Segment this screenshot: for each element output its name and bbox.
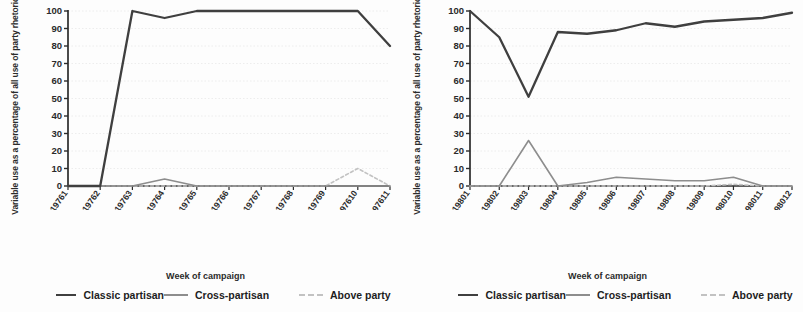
chart-panel-left: Variable use as a percentage of all use … bbox=[0, 0, 401, 312]
svg-text:100: 100 bbox=[448, 5, 464, 16]
svg-text:10: 10 bbox=[453, 163, 464, 174]
plot-area-left: 0102030405060708090100CARTER19761CARTER1… bbox=[28, 4, 394, 210]
y-axis-title-left-text: Variable use as a percentage of all use … bbox=[10, 0, 20, 215]
legend-item-classic-partisan[interactable]: Classic partisan bbox=[14, 289, 164, 301]
legend-label: Classic partisan bbox=[83, 289, 164, 301]
chart-panel-right: Variable use as a percentage of all use … bbox=[402, 0, 803, 312]
legend-left: Classic partisanCross-partisanAbove part… bbox=[14, 289, 404, 301]
legend-item-classic-partisan[interactable]: Classic partisan bbox=[416, 289, 566, 301]
plot-svg-left: 0102030405060708090100CARTER19761CARTER1… bbox=[28, 4, 394, 210]
svg-text:60: 60 bbox=[453, 75, 464, 86]
legend-label: Cross-partisan bbox=[597, 289, 671, 301]
solid-dark-line-swatch bbox=[56, 294, 76, 296]
plot-svg-right: 0102030405060708090100CARTER19801CARTER1… bbox=[430, 4, 796, 210]
solid-gray-line-swatch bbox=[566, 294, 590, 296]
solid-gray-line-swatch bbox=[164, 294, 188, 296]
svg-text:20: 20 bbox=[51, 145, 62, 156]
figure-root: Variable use as a percentage of all use … bbox=[0, 0, 803, 312]
svg-text:90: 90 bbox=[51, 23, 62, 34]
legend-item-above-party[interactable]: Above party bbox=[701, 289, 803, 301]
svg-text:50: 50 bbox=[453, 93, 464, 104]
y-axis-title-left: Variable use as a percentage of all use … bbox=[2, 0, 28, 212]
legend-item-cross-partisan[interactable]: Cross-partisan bbox=[566, 289, 701, 301]
legend-label: Cross-partisan bbox=[195, 289, 269, 301]
svg-text:90: 90 bbox=[453, 23, 464, 34]
legend-item-cross-partisan[interactable]: Cross-partisan bbox=[164, 289, 299, 301]
x-axis-title-left: Week of campaign bbox=[5, 271, 406, 281]
svg-text:80: 80 bbox=[453, 40, 464, 51]
legend-label: Classic partisan bbox=[485, 289, 566, 301]
plot-area-right: 0102030405060708090100CARTER19801CARTER1… bbox=[430, 4, 796, 210]
svg-text:10: 10 bbox=[51, 163, 62, 174]
svg-text:40: 40 bbox=[453, 110, 464, 121]
svg-text:50: 50 bbox=[51, 93, 62, 104]
svg-text:40: 40 bbox=[51, 110, 62, 121]
x-tick-label: CARTER19761 bbox=[28, 188, 70, 210]
legend-item-above-party[interactable]: Above party bbox=[299, 289, 404, 301]
legend-right: Classic partisanCross-partisanAbove part… bbox=[416, 289, 803, 301]
svg-text:20: 20 bbox=[453, 145, 464, 156]
x-tick-label: CARTER19801 bbox=[430, 188, 472, 210]
svg-text:30: 30 bbox=[51, 128, 62, 139]
dashed-light-line-swatch bbox=[299, 294, 323, 296]
svg-text:70: 70 bbox=[51, 58, 62, 69]
y-axis-title-right-text: Variable use as a percentage of all use … bbox=[412, 0, 422, 215]
legend-label: Above party bbox=[732, 289, 793, 301]
x-axis-title-right: Week of campaign bbox=[407, 271, 803, 281]
y-axis-title-right: Variable use as a percentage of all use … bbox=[404, 0, 430, 212]
svg-text:60: 60 bbox=[51, 75, 62, 86]
dashed-light-line-swatch bbox=[701, 294, 725, 296]
legend-label: Above party bbox=[330, 289, 391, 301]
svg-text:30: 30 bbox=[453, 128, 464, 139]
svg-text:100: 100 bbox=[46, 5, 62, 16]
svg-text:70: 70 bbox=[453, 58, 464, 69]
svg-text:80: 80 bbox=[51, 40, 62, 51]
solid-dark-line-swatch bbox=[458, 294, 478, 296]
